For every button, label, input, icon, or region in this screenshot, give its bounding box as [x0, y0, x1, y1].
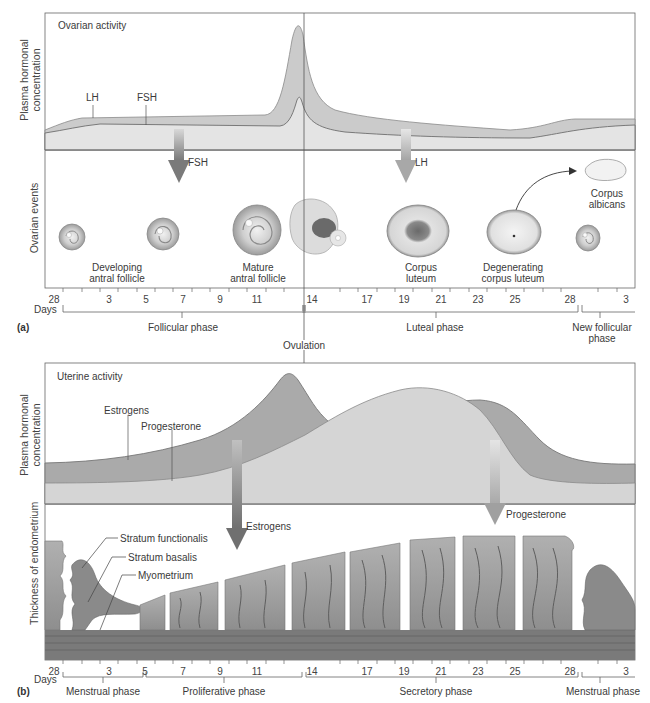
phase-secretory: Secretory phase — [400, 686, 473, 697]
stage-line1: Corpus — [405, 262, 437, 273]
developing-follicle-1 — [59, 224, 85, 250]
panel-a-phase-brackets — [63, 305, 635, 318]
progesterone-series-label: Progesterone — [141, 421, 201, 432]
day-tick: 5 — [142, 666, 148, 677]
day-tick: 9 — [217, 666, 223, 677]
phase-line1: New follicular — [572, 322, 631, 333]
day-tick: 3 — [623, 666, 629, 677]
stage-line1: Mature — [230, 262, 286, 273]
panel-b-days-label: Days — [34, 674, 57, 685]
day-tick: 17 — [361, 666, 372, 677]
stage-line1: Developing — [89, 262, 145, 273]
day-tick: 9 — [217, 294, 223, 305]
day-tick: 23 — [472, 294, 483, 305]
day-tick: 19 — [398, 294, 409, 305]
fsh-series-label: FSH — [137, 92, 157, 103]
stage-line1: Corpus — [589, 188, 626, 199]
corpus-luteum — [387, 205, 449, 257]
lh-arrow-label: LH — [415, 157, 428, 168]
day-tick: 14 — [306, 666, 317, 677]
stage-line2: corpus luteum — [482, 273, 545, 284]
day-tick: 11 — [252, 294, 262, 305]
panel-b-tag: (b) — [17, 686, 30, 697]
stage-line2: antral follicle — [89, 273, 145, 284]
menstrual-cycle-diagram — [0, 0, 650, 703]
phase-proliferative: Proliferative phase — [183, 686, 266, 697]
fsh-arrow-label: FSH — [188, 157, 208, 168]
day-tick: 25 — [509, 294, 520, 305]
phase-line2: phase — [572, 333, 631, 344]
progesterone-arrow-label: Progesterone — [506, 509, 566, 520]
stage-line2: luteum — [405, 273, 437, 284]
stratum-functionalis-label: Stratum functionalis — [120, 533, 208, 544]
day-tick: 17 — [361, 294, 372, 305]
phase-luteal: Luteal phase — [406, 322, 463, 333]
ovarian-activity-chart — [45, 13, 635, 288]
phase-menstrual-2: Menstrual phase — [566, 686, 640, 697]
y-axis-label-line2: concentration — [30, 35, 42, 125]
lh-series-label: LH — [86, 92, 99, 103]
endometrium-axis-label: Thickness of endometrium — [28, 505, 40, 625]
stage-developing-antral-follicle: Developing antral follicle — [89, 262, 145, 284]
myometrium-label: Myometrium — [138, 570, 193, 581]
phase-new-follicular: New follicular phase — [572, 322, 631, 344]
panel-a-days-label: Days — [34, 304, 57, 315]
developing-follicle-2 — [147, 218, 179, 250]
stage-line1: Degenerating — [482, 262, 545, 273]
mature-antral-follicle — [233, 205, 281, 255]
day-tick: 7 — [180, 666, 186, 677]
degenerating-corpus-luteum — [487, 210, 541, 254]
day-tick: 28 — [564, 666, 575, 677]
panel-a-y-axis-label: Plasma hormonal concentration — [18, 35, 42, 125]
day-tick: 11 — [252, 666, 262, 677]
estrogens-arrow-label: Estrogens — [246, 521, 291, 532]
ovulation-label: Ovulation — [283, 340, 325, 351]
day-tick: 3 — [623, 294, 629, 305]
y-axis-label-line2: concentration — [30, 390, 42, 480]
phase-menstrual-1: Menstrual phase — [66, 686, 140, 697]
y-axis-label-line1: Plasma hormonal — [18, 35, 30, 125]
day-tick: 25 — [509, 666, 520, 677]
day-tick: 14 — [306, 294, 317, 305]
panel-b-y-axis-label: Plasma hormonal concentration — [18, 390, 42, 480]
ovarian-activity-title: Ovarian activity — [58, 20, 126, 31]
panel-a-ticks — [63, 288, 617, 292]
stage-mature-antral-follicle: Mature antral follicle — [230, 262, 286, 284]
stratum-basalis-label: Stratum basalis — [128, 552, 197, 563]
phase-follicular: Follicular phase — [148, 322, 218, 333]
day-tick: 7 — [180, 294, 186, 305]
day-tick: 28 — [564, 294, 575, 305]
day-tick: 5 — [143, 294, 149, 305]
ovarian-events-axis-label: Ovarian events — [28, 178, 40, 258]
stage-line2: antral follicle — [230, 273, 286, 284]
estrogens-series-label: Estrogens — [104, 405, 149, 416]
stage-corpus-luteum: Corpus luteum — [405, 262, 437, 284]
stage-degenerating-corpus-luteum: Degenerating corpus luteum — [482, 262, 545, 284]
panel-b-phase-brackets — [63, 672, 635, 683]
day-tick: 23 — [472, 666, 483, 677]
day-tick: 21 — [435, 666, 446, 677]
stage-corpus-albicans: Corpus albicans — [589, 188, 626, 210]
day-tick: 19 — [398, 666, 409, 677]
day-tick: 3 — [106, 666, 112, 677]
uterine-activity-title: Uterine activity — [57, 371, 123, 382]
panel-b-ticks — [63, 660, 617, 664]
y-axis-label-line1: Plasma hormonal — [18, 390, 30, 480]
new-developing-follicle — [576, 225, 600, 251]
panel-a-tag: (a) — [17, 322, 29, 333]
day-tick: 3 — [106, 294, 112, 305]
stage-line2: albicans — [589, 199, 626, 210]
day-tick: 21 — [435, 294, 446, 305]
